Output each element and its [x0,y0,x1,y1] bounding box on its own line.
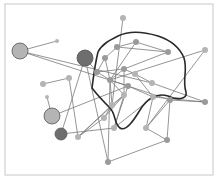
graph-node [121,92,127,98]
graph-node [44,108,60,124]
graph-node [12,43,28,59]
graph-node [107,77,113,83]
graph-node [132,71,138,77]
graph-node [105,159,111,165]
graph-node [40,81,46,87]
graph-node [149,80,155,86]
graph-node [143,125,149,131]
network-diagram [0,0,218,180]
graph-node [202,99,208,105]
graph-node [167,97,173,103]
graph-node [77,50,93,66]
graph-node [121,66,127,72]
graph-node [102,55,108,61]
graph-node [111,125,117,131]
graph-node [202,47,208,53]
graph-svg [0,0,218,180]
graph-node [120,15,126,21]
graph-node [164,137,170,143]
graph-node [75,134,81,140]
diagram-frame [5,4,213,175]
graph-node [101,115,107,121]
graph-node [66,75,72,81]
graph-node [114,44,120,50]
graph-node [94,69,100,75]
graph-node [150,94,156,100]
graph-node [109,102,115,108]
graph-node [55,128,67,140]
graph-node [133,39,139,45]
graph-node [125,83,131,89]
graph-node [45,95,49,99]
graph-node [165,49,171,55]
graph-node [55,39,59,43]
